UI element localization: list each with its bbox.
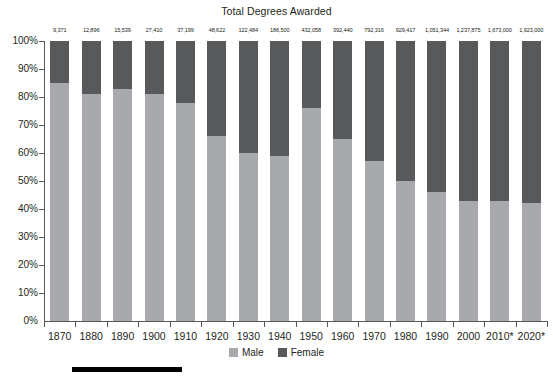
bar-group[interactable]	[427, 41, 446, 321]
bar-segment-male[interactable]	[396, 181, 415, 321]
bar-segment-female[interactable]	[522, 41, 541, 203]
bar-group[interactable]	[270, 41, 289, 321]
bar-segment-male[interactable]	[490, 201, 509, 321]
bar-group[interactable]	[113, 41, 132, 321]
bar-segment-female[interactable]	[113, 41, 132, 89]
bar-group[interactable]	[365, 41, 384, 321]
y-axis-tick-mark	[39, 265, 44, 266]
x-axis-tick-label: 1890	[107, 330, 138, 342]
bar-segment-male[interactable]	[239, 153, 258, 321]
bar-segment-female[interactable]	[459, 41, 478, 201]
bar-group[interactable]	[333, 41, 352, 321]
bar-segment-female[interactable]	[490, 41, 509, 201]
bar-group[interactable]	[522, 41, 541, 321]
y-axis-tick-mark	[39, 125, 44, 126]
x-axis-tick-mark	[327, 322, 328, 327]
bar-segment-male[interactable]	[145, 94, 164, 321]
bar-segment-male[interactable]	[50, 83, 69, 321]
x-axis-tick-mark	[453, 322, 454, 327]
x-axis-tick-label: 1930	[233, 330, 264, 342]
y-axis-tick-label: 50%	[0, 176, 38, 186]
bar-group[interactable]	[239, 41, 258, 321]
bar-group[interactable]	[207, 41, 226, 321]
legend-label: Female	[291, 347, 324, 359]
bar-segment-female[interactable]	[176, 41, 195, 103]
x-axis-tick-label: 1980	[390, 330, 421, 342]
y-axis-tick-mark	[39, 69, 44, 70]
bar-total-label: 9,371	[44, 27, 75, 34]
x-axis-tick-mark	[516, 322, 517, 327]
bar-total-label: 1,673,000	[484, 27, 515, 34]
bar-segment-female[interactable]	[207, 41, 226, 136]
x-axis-tick-mark	[233, 322, 234, 327]
legend-item[interactable]: Male	[229, 347, 264, 359]
bar-group[interactable]	[50, 41, 69, 321]
x-axis-tick-label: 1900	[138, 330, 169, 342]
bar-group[interactable]	[145, 41, 164, 321]
y-axis-tick-label: 20%	[0, 260, 38, 270]
legend-swatch	[278, 348, 287, 357]
y-axis-tick-label: 10%	[0, 288, 38, 298]
bar-segment-male[interactable]	[302, 108, 321, 321]
bar-segment-male[interactable]	[113, 89, 132, 321]
y-axis-tick-mark	[39, 41, 44, 42]
x-axis-tick-mark	[421, 322, 422, 327]
bar-group[interactable]	[302, 41, 321, 321]
y-axis-line	[44, 41, 45, 322]
x-axis-tick-mark	[201, 322, 202, 327]
x-axis-tick-label: 1940	[264, 330, 295, 342]
bar-segment-male[interactable]	[207, 136, 226, 321]
bar-group[interactable]	[490, 41, 509, 321]
chart-title: Total Degrees Awarded	[0, 5, 553, 17]
x-axis-tick-label: 2000	[453, 330, 484, 342]
bar-group[interactable]	[396, 41, 415, 321]
bar-total-label: 48,622	[201, 27, 232, 34]
bar-total-label: 27,410	[138, 27, 169, 34]
bar-segment-female[interactable]	[396, 41, 415, 181]
bar-total-label: 37,199	[170, 27, 201, 34]
bar-group[interactable]	[459, 41, 478, 321]
bar-total-label: 432,058	[296, 27, 327, 34]
y-axis-tick-label: 80%	[0, 92, 38, 102]
bar-segment-male[interactable]	[459, 201, 478, 321]
y-axis-tick-mark	[39, 237, 44, 238]
bar-total-label: 929,417	[390, 27, 421, 34]
bar-total-label: 1,237,875	[453, 27, 484, 34]
x-axis-tick-mark	[296, 322, 297, 327]
x-axis-tick-mark	[547, 322, 548, 327]
bottom-rule	[72, 367, 182, 372]
legend-item[interactable]: Female	[278, 347, 324, 359]
x-axis-tick-mark	[138, 322, 139, 327]
chart-legend: MaleFemale	[0, 347, 553, 359]
bar-group[interactable]	[82, 41, 101, 321]
bar-total-label: 792,316	[358, 27, 389, 34]
x-axis-tick-label: 1910	[170, 330, 201, 342]
bar-segment-female[interactable]	[50, 41, 69, 83]
x-axis-tick-label: 1870	[44, 330, 75, 342]
y-axis-tick-mark	[39, 293, 44, 294]
x-axis-tick-label: 1950	[296, 330, 327, 342]
x-axis-tick-mark	[484, 322, 485, 327]
y-axis-tick-label: 90%	[0, 64, 38, 74]
bar-segment-female[interactable]	[145, 41, 164, 94]
bar-segment-female[interactable]	[239, 41, 258, 153]
bar-segment-male[interactable]	[427, 192, 446, 321]
chart-container: Total Degrees Awarded 100%90%80%70%60%50…	[0, 0, 553, 379]
bar-segment-female[interactable]	[333, 41, 352, 139]
bar-segment-male[interactable]	[82, 94, 101, 321]
bar-segment-female[interactable]	[427, 41, 446, 192]
x-axis-tick-mark	[75, 322, 76, 327]
legend-label: Male	[242, 347, 264, 359]
x-axis-tick-mark	[358, 322, 359, 327]
bar-segment-male[interactable]	[365, 161, 384, 321]
bar-total-label: 122,484	[233, 27, 264, 34]
bar-group[interactable]	[176, 41, 195, 321]
bar-segment-female[interactable]	[270, 41, 289, 156]
bar-segment-female[interactable]	[82, 41, 101, 94]
bar-segment-female[interactable]	[365, 41, 384, 161]
bar-segment-male[interactable]	[176, 103, 195, 321]
bar-segment-female[interactable]	[302, 41, 321, 108]
bar-segment-male[interactable]	[333, 139, 352, 321]
bar-segment-male[interactable]	[522, 203, 541, 321]
bar-segment-male[interactable]	[270, 156, 289, 321]
